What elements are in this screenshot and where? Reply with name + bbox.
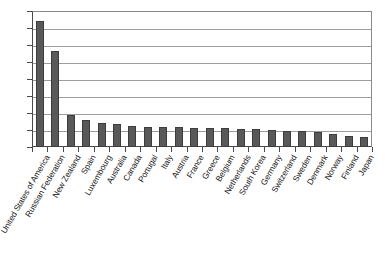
x-axis-tick-mark [171,147,172,152]
bar [67,115,75,147]
bar-chart: 0100200300400500600700800 United States … [0,0,388,271]
x-axis-tick-mark [279,147,280,152]
bar [268,130,276,147]
x-axis-tick-mark [78,147,79,152]
x-axis-tick-mark [109,147,110,152]
bar [221,128,229,147]
bar [252,129,260,147]
x-axis-tick-mark [156,147,157,152]
x-axis-tick-mark [47,147,48,152]
x-axis-tick-mark [326,147,327,152]
bar [36,21,44,147]
x-axis-tick-mark [63,147,64,152]
x-axis-tick-mark [187,147,188,152]
x-axis-tick-mark [357,147,358,152]
bar [314,132,322,147]
bar [175,127,183,147]
bar [128,126,136,147]
x-axis-tick-mark [94,147,95,152]
bar [51,51,59,147]
x-axis-tick-mark [125,147,126,152]
bar [98,123,106,147]
bar [206,128,214,147]
bar [144,127,152,147]
x-axis-tick-mark [295,147,296,152]
x-axis-tick-mark [372,147,373,152]
bar [345,136,353,147]
bar [159,127,167,147]
x-axis-labels: United States of AmericaRussian Federati… [32,153,372,271]
x-axis-tick-mark [202,147,203,152]
bar [237,129,245,147]
x-axis-tick-mark [310,147,311,152]
bars-series [32,11,372,147]
bar [298,131,306,147]
x-axis-tick-mark [248,147,249,152]
x-axis-tick-mark [264,147,265,152]
bar [82,120,90,147]
x-axis-tick-mark [341,147,342,152]
x-axis-tick-mark [217,147,218,152]
bar [329,134,337,147]
x-axis-tick-mark [32,147,33,152]
bar [283,131,291,147]
bar [360,137,368,147]
bar [113,124,121,147]
x-axis-tick-mark [140,147,141,152]
bar [190,128,198,147]
x-axis-tick-mark [233,147,234,152]
